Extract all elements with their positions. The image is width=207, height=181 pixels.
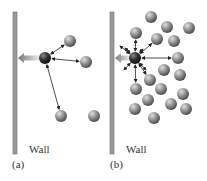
wall-b xyxy=(110,12,114,154)
focus-molecule-b xyxy=(129,52,141,64)
interaction-arrow-a-2 xyxy=(47,65,59,110)
molecule-b-7 xyxy=(158,64,170,76)
molecule-b-2 xyxy=(183,22,195,34)
molecule-a-2 xyxy=(55,110,67,122)
interaction-arrow-a-0 xyxy=(51,45,64,54)
interaction-arrow-b-4 xyxy=(140,44,151,54)
wall-label-b: Wall xyxy=(126,143,147,155)
force-arrow-a xyxy=(18,53,39,63)
interaction-arrow-short-b-0 xyxy=(120,46,130,54)
force-arrow-b xyxy=(115,53,129,63)
molecule-b-0 xyxy=(145,11,157,23)
interaction-arrow-a-1 xyxy=(52,59,79,62)
molecule-b-17 xyxy=(148,112,160,124)
focus-molecule-a xyxy=(39,52,51,64)
molecule-b-9 xyxy=(144,74,156,86)
molecule-b-8 xyxy=(174,69,186,81)
molecule-b-11 xyxy=(155,83,167,95)
wall-label-a: Wall xyxy=(29,143,50,155)
molecule-b-5 xyxy=(168,35,180,47)
molecule-a-0 xyxy=(64,35,76,47)
molecule-a-1 xyxy=(80,56,92,68)
molecule-b-6 xyxy=(172,52,184,64)
molecule-b-12 xyxy=(177,88,189,100)
interaction-arrow-b-10 xyxy=(135,65,136,82)
molecule-a-3 xyxy=(88,110,100,122)
caption-a: (a) xyxy=(12,158,24,170)
molecule-b-3 xyxy=(130,27,142,39)
molecule-b-15 xyxy=(129,103,141,115)
caption-b: (b) xyxy=(110,158,123,170)
molecule-b-10 xyxy=(130,83,142,95)
molecule-b-16 xyxy=(180,103,192,115)
molecule-b-1 xyxy=(161,21,173,33)
interaction-arrow-short-b-1 xyxy=(124,63,130,70)
molecule-b-14 xyxy=(165,98,177,110)
molecule-b-13 xyxy=(142,94,154,106)
molecule-b-4 xyxy=(151,33,163,45)
wall-a xyxy=(13,12,17,154)
